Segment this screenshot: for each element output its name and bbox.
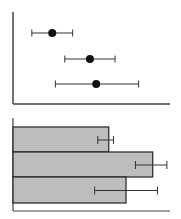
data-point	[48, 29, 56, 37]
bar	[13, 127, 109, 152]
data-point	[86, 55, 94, 63]
bar	[13, 152, 153, 177]
bar-errorbar-panel	[13, 118, 170, 211]
chart-figure	[0, 0, 181, 219]
dot-errorbar-panel	[13, 12, 170, 104]
data-point	[92, 80, 100, 88]
